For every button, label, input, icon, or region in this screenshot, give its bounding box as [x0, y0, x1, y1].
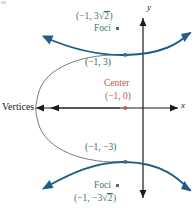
foci-upper-label: Foci [94, 24, 119, 34]
focus-lower-coordinate-tail: ) [113, 193, 116, 203]
radical-sign-icon-lower: √ [102, 193, 108, 204]
focus-upper-coordinate-label: (−1, 3√2) [76, 11, 113, 22]
focus-upper-coordinate-prefix: (−1, 3 [76, 11, 99, 21]
y-axis-label: y [147, 3, 151, 12]
center-title-label: Center [104, 79, 129, 89]
focus-lower-coordinate-label: (−1, −3√2) [74, 193, 116, 204]
hyperbola-upper-branch [42, 32, 192, 55]
center-coordinate-label: (−1, 0) [105, 92, 131, 102]
sqrt-glyph-lower: √2 [102, 193, 113, 204]
focus-upper-coordinate-tail: ) [110, 11, 113, 21]
vertex-lower-marker [124, 160, 127, 163]
foci-lower-label: Foci [94, 181, 119, 191]
foci-lower-word: Foci [94, 180, 111, 190]
x-axis-label: x [181, 101, 185, 110]
foci-upper-word: Foci [94, 23, 111, 33]
vertex-lower-label: (−1, −3) [85, 143, 116, 153]
vertices-label: Vertices [2, 102, 34, 113]
radical-sign-icon: √ [99, 11, 105, 22]
focus-lower-dot-icon [116, 184, 120, 188]
focus-upper-radicand: 2 [104, 11, 110, 22]
focus-lower-coordinate-prefix: (−1, −3 [74, 193, 102, 203]
vertex-upper-label: (−1, 3) [85, 58, 111, 68]
focus-lower-radicand: 2 [107, 193, 113, 204]
center-marker [124, 106, 127, 109]
vertices-callout-arrow [50, 105, 120, 111]
sqrt-glyph-upper: √2 [99, 11, 110, 22]
focus-upper-dot-icon [116, 27, 120, 31]
vertex-upper-marker [124, 53, 127, 56]
hyperbola-figure: y x (−1, 3√2) Foci (−1, 3) Center (−1, 0… [0, 0, 195, 208]
